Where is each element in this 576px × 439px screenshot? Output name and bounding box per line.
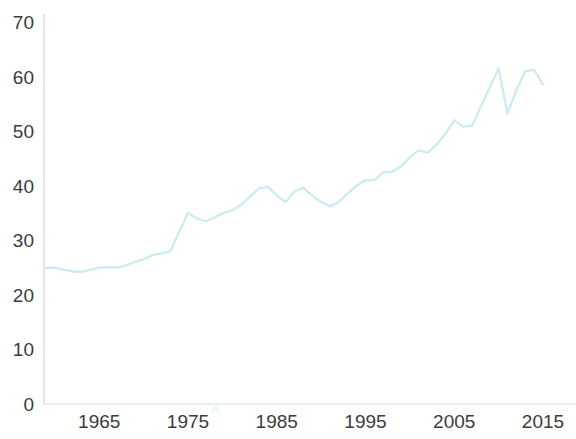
y-tick-label-20: 20 <box>13 285 34 306</box>
y-tick-label-60: 60 <box>13 67 34 88</box>
y-tick-label-0: 0 <box>23 394 34 415</box>
line-chart: 010203040506070 196519751985199520052015… <box>0 0 576 439</box>
plot-background <box>0 0 576 439</box>
y-tick-label-50: 50 <box>13 121 34 142</box>
chart-container: 010203040506070 196519751985199520052015… <box>0 0 576 439</box>
x-tick-label-1965: 1965 <box>78 411 120 432</box>
y-tick-label-10: 10 <box>13 339 34 360</box>
watermark-annotation: A <box>211 402 220 417</box>
y-tick-label-40: 40 <box>13 176 34 197</box>
y-tick-label-70: 70 <box>13 12 34 33</box>
x-tick-label-1985: 1985 <box>256 411 298 432</box>
y-tick-label-30: 30 <box>13 230 34 251</box>
x-tick-label-1995: 1995 <box>344 411 386 432</box>
x-tick-label-2015: 2015 <box>522 411 564 432</box>
x-tick-label-2005: 2005 <box>433 411 475 432</box>
x-tick-label-1975: 1975 <box>167 411 209 432</box>
